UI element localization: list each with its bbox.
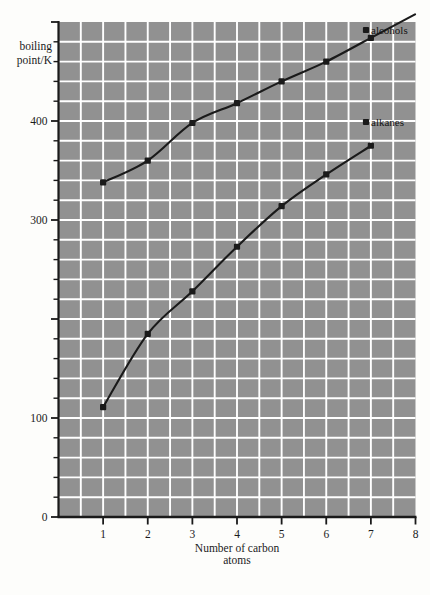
x-tick-label-7: 7 [368,528,374,540]
x-tick-label-3: 3 [190,528,196,540]
y-axis-title-line2: point/K [17,54,53,67]
y-tick-label-0: 0 [42,511,48,523]
data-point-alcohols-5 [279,78,285,84]
data-point-alkanes-2 [145,331,151,337]
data-point-alkanes-5 [279,203,285,209]
data-point-alkanes-7 [368,143,374,149]
x-tick-label-4: 4 [234,528,240,540]
x-tick-label-8: 8 [413,528,419,540]
data-point-alkanes-4 [234,244,240,250]
data-point-alcohols-6 [323,59,329,65]
data-point-alkanes-6 [323,171,329,177]
x-tick-label-2: 2 [145,528,151,540]
x-tick-label-6: 6 [323,528,329,540]
data-point-alcohols-2 [145,158,151,164]
x-axis-title-line1: Number of carbon [195,542,280,554]
y-axis-title-line1: boiling [19,40,52,53]
boiling-point-line-chart: 0100300400 12345678 alcoholsalkanes boil… [0,0,430,595]
y-tick-label-300: 300 [30,214,48,226]
y-tick-label-400: 400 [30,115,48,127]
x-tick-label-5: 5 [279,528,285,540]
data-point-alkanes-1 [100,404,106,410]
data-point-alcohols-3 [189,120,195,126]
x-axis-title-line2: atoms [223,554,251,566]
data-point-alcohols-4 [234,100,240,106]
data-point-alcohols-7 [368,35,374,41]
chart-figure: 0100300400 12345678 alcoholsalkanes boil… [0,0,430,595]
x-tick-label-1: 1 [100,528,106,540]
data-point-alkanes-3 [189,288,195,294]
y-tick-label-100: 100 [30,412,48,424]
series-label-alkanes: alkanes [371,116,404,128]
series-label-alcohols: alcohols [371,24,408,36]
series-label-marker-alcohols [363,27,369,33]
data-point-alcohols-1 [100,179,106,185]
series-label-marker-alkanes [363,119,369,125]
